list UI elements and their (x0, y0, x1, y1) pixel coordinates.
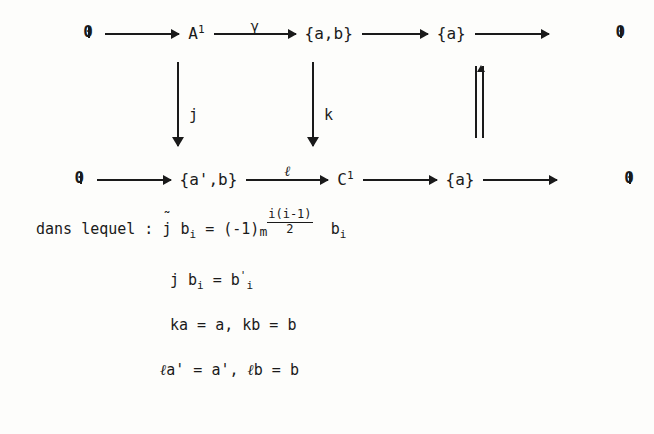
arrow-r2-3 (363, 171, 437, 189)
arrow-shaft (475, 33, 549, 35)
rhs-sub-i: i (340, 228, 347, 241)
node-c1-base: C (337, 170, 347, 189)
arrow-shaft (97, 179, 171, 181)
arrow-shaft (105, 33, 179, 35)
lhs-var-b: b (181, 220, 190, 238)
arrow-head-icon (549, 175, 558, 185)
spacer-2 (196, 220, 205, 238)
arrow-head-icon (288, 29, 297, 39)
arrow-shaft (312, 62, 314, 146)
diagram-row-top: A1 γ {a,b} {a} (0, 14, 654, 54)
node-a1-superscript: 1 (198, 23, 205, 36)
spacer-3 (214, 220, 223, 238)
line4-part-a: a' = a', (166, 361, 247, 379)
zero-object-icon (75, 170, 88, 187)
spacer-5 (204, 271, 213, 289)
line4-part-b: b = b (254, 361, 299, 379)
vertical-arrow-k: k (307, 62, 321, 146)
node-set-a-bottom: {a} (446, 172, 475, 188)
arrow-shaft (177, 62, 179, 146)
fraction-denominator: 2 (267, 223, 312, 237)
arrow-head-icon (163, 175, 172, 185)
formula-line-4: ℓa' = a', ℓb = b (160, 363, 299, 378)
node-zero-right-top (558, 8, 629, 60)
line2-sub-i: i (197, 279, 204, 292)
rhs-var-b: b (331, 220, 340, 238)
equals-sign: = (205, 220, 214, 238)
zero-object-icon (615, 24, 628, 41)
node-zero-left-bottom (17, 154, 88, 206)
line2-prime-sub-i: i (246, 279, 253, 292)
arrow-r1-1 (105, 25, 179, 43)
arrow-r2-4 (483, 171, 557, 189)
rhs-base-minus-one: (-1) (223, 220, 259, 238)
arrow-r1-3 (362, 25, 428, 43)
arrow-head-icon (171, 29, 180, 39)
node-zero-left-top (26, 8, 97, 60)
formula-line-1: dans lequel : ˜j bi = (-1)mi(i-1)2 bi (36, 222, 346, 251)
fraction-numerator: i(i-1) (267, 208, 312, 223)
double-bar-line-left (475, 66, 477, 138)
arrow-head-icon (172, 137, 184, 147)
arrow-shaft (483, 179, 557, 181)
vertical-arrow-j: j (172, 62, 186, 146)
vertical-arrow-label-k: k (324, 106, 333, 124)
tilde-accent-icon: ˜ (162, 211, 171, 226)
node-set-ab: {a,b} (305, 26, 353, 42)
arrow-head-icon (429, 175, 438, 185)
node-a1-base: A (188, 24, 198, 43)
arrow-shaft (363, 179, 437, 181)
arrow-head-icon (477, 65, 485, 72)
vertical-arrow-label-j: j (189, 106, 198, 124)
line2-eq-rhs: = b (213, 271, 240, 289)
node-c1-superscript: 1 (347, 169, 354, 182)
spacer-1 (171, 220, 180, 238)
line2-lhs: j b (170, 271, 197, 289)
arrow-head-icon (320, 175, 329, 185)
double-bar-line-right (482, 66, 484, 138)
exponent-expression: mi(i-1)2 (259, 209, 312, 238)
node-set-aprime-b: {a',b} (180, 172, 238, 188)
node-zero-right-bottom (566, 154, 637, 206)
arrow-shaft (362, 33, 428, 35)
node-a1: A1 (188, 26, 204, 42)
arrow-r1-2-gamma: γ (214, 25, 296, 43)
diagram-row-bottom: {a',b} ℓ C1 {a} (0, 160, 654, 200)
arrow-head-icon (541, 29, 550, 39)
zero-object-icon (83, 24, 96, 41)
spacer-4 (313, 220, 331, 238)
node-c1: C1 (337, 172, 353, 188)
j-tilde-symbol: ˜j (162, 222, 171, 237)
formula-line-3: ka = a, kb = b (170, 318, 296, 333)
scanned-page: A1 γ {a,b} {a} j k (0, 0, 654, 434)
arrow-r2-2-ell: ℓ (246, 171, 328, 189)
exponent-fraction: i(i-1)2 (267, 208, 312, 237)
arrow-head-icon (307, 137, 319, 147)
arrow-r1-4 (475, 25, 549, 43)
formula-line-2: j bi = b'i (170, 273, 253, 288)
intro-text: dans lequel : (36, 220, 162, 238)
arrow-label-ell: ℓ (284, 163, 290, 180)
arrow-head-icon (420, 29, 429, 39)
arrow-label-gamma: γ (250, 18, 258, 34)
arrow-r2-1 (97, 171, 171, 189)
identity-double-bar (474, 66, 486, 138)
zero-object-icon (624, 170, 637, 187)
exponent-m: m (259, 224, 267, 239)
node-set-a-top: {a} (437, 26, 466, 42)
